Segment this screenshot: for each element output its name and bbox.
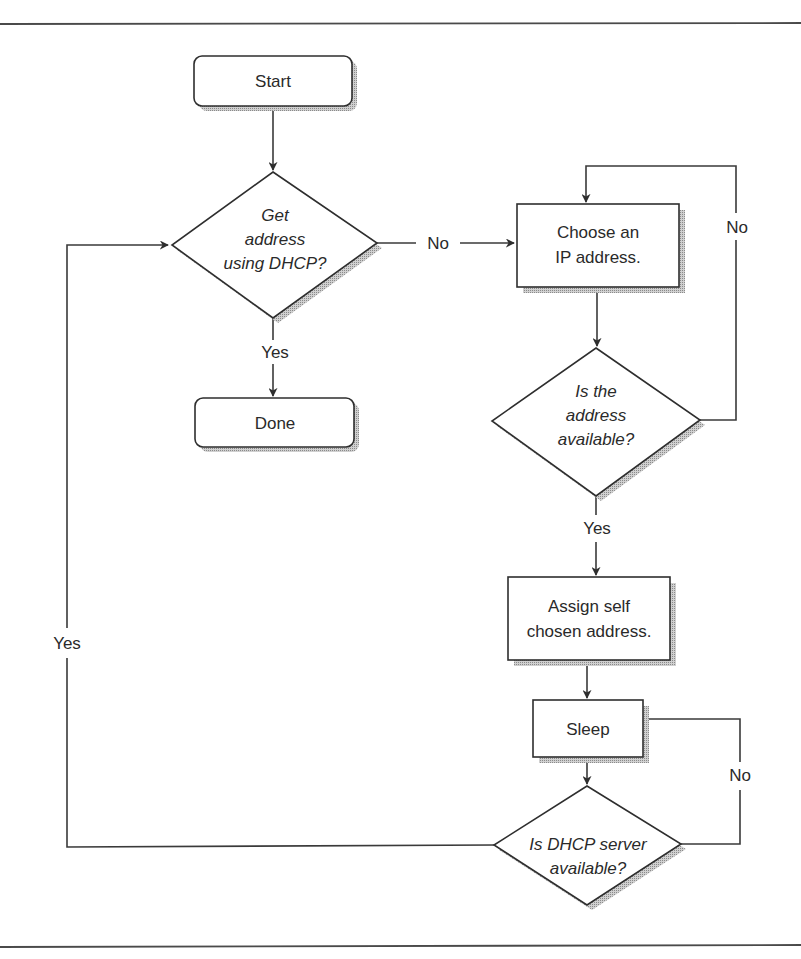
node-is-address-available: Is the address available? — [492, 348, 705, 501]
node-start: Start — [194, 56, 357, 111]
node-start-label: Start — [255, 72, 291, 91]
choose-ip-line-1: Choose an — [557, 223, 639, 242]
node-is-dhcp-server-available: Is DHCP server available? — [494, 786, 686, 910]
edge-label-available-no: No — [726, 218, 748, 237]
available-line-2: address — [566, 406, 627, 425]
edge-label-dhcp-server-yes: Yes — [53, 634, 81, 653]
edge-label-get-dhcp-yes: Yes — [261, 343, 289, 362]
choose-ip-line-2: IP address. — [555, 248, 641, 267]
dhcp-server-line-1: Is DHCP server — [529, 835, 648, 854]
flowchart-canvas: Start Get address using DHCP? Done Choos… — [0, 0, 801, 959]
node-done-label: Done — [255, 414, 296, 433]
get-dhcp-line-2: address — [245, 230, 306, 249]
available-line-3: available? — [558, 430, 635, 449]
dhcp-server-line-2: available? — [550, 859, 627, 878]
edge-label-dhcp-server-no: No — [729, 766, 751, 785]
node-get-address-using-dhcp: Get address using DHCP? — [172, 172, 382, 323]
edge-dhcp-server-no-loop-b — [645, 719, 740, 762]
edge-dhcp-server-yes-loop-b — [67, 245, 168, 628]
get-dhcp-line-1: Get — [261, 206, 290, 225]
edge-dhcp-server-no-loop-a — [681, 790, 740, 844]
edge-dhcp-server-yes-loop-a — [67, 658, 494, 847]
frame-bottom-border — [0, 945, 801, 947]
edge-label-get-dhcp-no: No — [427, 234, 449, 253]
node-sleep-label: Sleep — [566, 720, 609, 739]
node-sleep: Sleep — [533, 700, 649, 763]
node-choose-ip-address: Choose an IP address. — [517, 204, 685, 293]
frame-top-border — [0, 23, 801, 24]
edge-label-available-yes: Yes — [583, 519, 611, 538]
node-done: Done — [195, 398, 359, 452]
get-dhcp-line-3: using DHCP? — [224, 254, 328, 273]
assign-line-1: Assign self — [548, 597, 630, 616]
edge-available-no-loop-a — [700, 240, 736, 420]
assign-line-2: chosen address. — [527, 622, 652, 641]
available-line-1: Is the — [575, 382, 617, 401]
node-assign-self-chosen-address: Assign self chosen address. — [508, 577, 676, 666]
